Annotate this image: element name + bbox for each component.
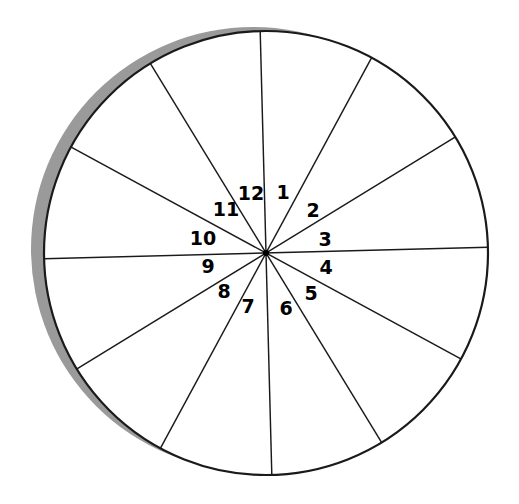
wheel-diagram-svg: 1 2 3 4 5 6 7 8 9 10 11 12 bbox=[0, 0, 519, 504]
sector-label-12: 12 bbox=[238, 182, 264, 204]
sector-label-7: 7 bbox=[241, 295, 254, 317]
sector-label-9: 9 bbox=[201, 255, 214, 277]
sector-label-3: 3 bbox=[318, 228, 331, 250]
hub-dot bbox=[263, 250, 269, 256]
sector-label-10: 10 bbox=[190, 227, 216, 249]
wheel-diagram-figure: 1 2 3 4 5 6 7 8 9 10 11 12 bbox=[0, 0, 519, 504]
sector-label-11: 11 bbox=[213, 198, 239, 220]
sector-label-1: 1 bbox=[276, 181, 289, 203]
sector-label-8: 8 bbox=[217, 280, 230, 302]
sector-label-6: 6 bbox=[279, 297, 292, 319]
sector-label-2: 2 bbox=[306, 199, 319, 221]
sector-label-5: 5 bbox=[304, 282, 317, 304]
sector-label-4: 4 bbox=[319, 256, 332, 278]
